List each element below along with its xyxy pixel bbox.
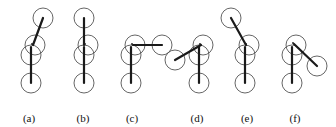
panel-label-d: (d) (182, 112, 212, 125)
chain-conformations-diagram (0, 0, 336, 127)
joint-marker-dot (31, 43, 33, 45)
panel-b (74, 8, 98, 93)
joint-marker-dot (131, 43, 133, 45)
distal-link (231, 18, 246, 45)
panel-label-f: (f) (280, 112, 310, 125)
panel-label-c: (c) (117, 112, 147, 125)
panel-label-a: (a) (14, 112, 44, 125)
panel-label-e: (e) (232, 112, 262, 125)
figure-panel: (a)(b)(c)(d)(e)(f) (0, 0, 336, 127)
distal-link (175, 45, 201, 60)
joint-marker-dot (292, 42, 294, 44)
joint-marker-dot (245, 43, 247, 45)
joint-marker-dot (199, 43, 201, 45)
panel-e (221, 8, 259, 93)
panel-a (21, 8, 53, 93)
panel-f (282, 35, 327, 93)
joint-marker-dot (84, 43, 86, 45)
panel-c (121, 35, 172, 93)
panel-label-b: (b) (68, 112, 98, 125)
distal-link (33, 18, 43, 45)
